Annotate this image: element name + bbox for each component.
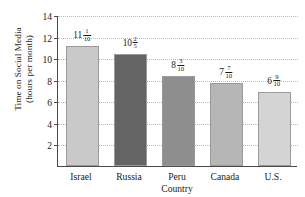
bar [66,46,99,166]
bar-chart-figure: Time on Social Media (hours per month) 2… [0,0,305,197]
x-tick-label: Peru [168,171,186,182]
y-tick-label: 4 [47,118,52,129]
bar [114,54,147,166]
bar-value-label: 8310 [171,58,184,72]
x-axis-title: Country [161,183,192,194]
y-tick-label: 8 [47,75,52,86]
bar-slot: 7710 [210,15,243,166]
y-tick-label: 14 [42,11,52,22]
bar-slot: 1025 [114,15,147,166]
bar-value-label: 1025 [123,36,138,50]
x-tick-label: Russia [116,171,142,182]
bar [210,83,243,166]
plot-area: 2468101214 111101025831077106910 [57,16,297,167]
y-tick-label: 2 [47,140,52,151]
y-tick-label: 6 [47,97,52,108]
bars-group: 111101025831077106910 [58,15,298,166]
x-tick-label: U.S. [264,171,281,182]
bar-value-label: 6910 [267,73,280,87]
x-tick-label: Canada [211,171,240,182]
x-tick-label: Israel [70,171,91,182]
bar-value-label: 11110 [73,28,91,42]
bar-slot: 6910 [258,15,291,166]
bar [162,76,195,166]
y-axis-title: Time on Social Media (hours per month) [13,0,35,139]
bar-slot: 8310 [162,15,195,166]
bar [258,92,291,166]
bar-value-label: 7710 [219,65,232,79]
y-tick-label: 10 [42,54,52,65]
y-tick-label: 12 [42,32,52,43]
bar-slot: 11110 [66,15,99,166]
